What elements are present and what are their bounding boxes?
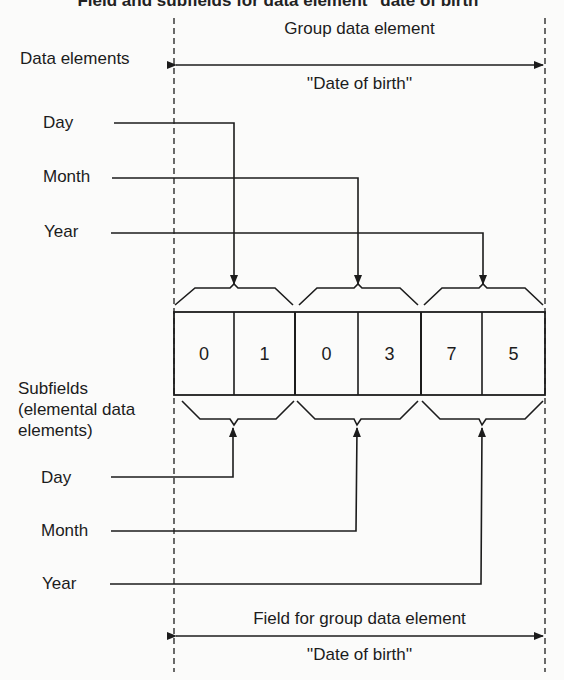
top-element-day: Day [43,114,73,131]
bottom-element-day: Day [41,469,71,486]
field-cell: 1 [234,345,295,363]
field-cell: 5 [482,345,545,363]
group-data-element-label: Group data element [174,20,545,37]
field-cell: 0 [174,345,234,363]
group-name-top: ''Date of birth'' [174,75,545,92]
month-connector-top [112,178,358,284]
field-cell: 7 [421,345,482,363]
day-brace-top [175,284,293,305]
top-element-month: Month [43,168,90,185]
month-brace-bottom [297,401,418,425]
year-connector-top [111,233,483,284]
field-for-group-label: Field for group data element [174,610,545,627]
month-connector-bottom [111,428,357,531]
data-elements-heading: Data elements [20,50,130,67]
bottom-element-month: Month [41,522,88,539]
subfields-heading-line2: (elemental data [18,401,135,418]
year-brace-top [424,284,543,305]
year-brace-bottom [422,401,543,425]
field-cell: 0 [295,345,358,363]
group-name-bottom: ''Date of birth'' [174,646,545,663]
day-brace-bottom [182,401,294,425]
diagram-lines [0,0,564,680]
field-cell: 3 [358,345,421,363]
top-element-year: Year [44,223,78,240]
bottom-element-year: Year [42,575,76,592]
subfields-heading-line1: Subfields [18,380,88,397]
month-brace-top [299,284,418,305]
subfields-heading-line3: elements) [18,422,93,439]
day-connector-bottom [111,428,233,477]
year-connector-bottom [110,428,482,584]
